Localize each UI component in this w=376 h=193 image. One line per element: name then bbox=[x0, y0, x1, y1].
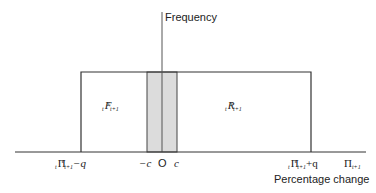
y-axis-label: Frequency bbox=[165, 12, 217, 23]
minus-q: −q bbox=[73, 157, 86, 169]
sub-t1: t+1 bbox=[64, 164, 73, 170]
prefix-t: t bbox=[55, 164, 57, 170]
tick-pos-c: c bbox=[174, 158, 179, 169]
sub-t1: t+1 bbox=[110, 106, 119, 112]
pi-symbol: Π bbox=[344, 157, 352, 169]
x-axis-label: Percentage change bbox=[274, 174, 369, 185]
x-axis-variable: Πt+1 bbox=[344, 158, 361, 170]
tick-left-bound: tΠet+1−q bbox=[55, 158, 86, 170]
tick-right-bound: tΠet+1+q bbox=[288, 158, 318, 170]
sub-t1: t+1 bbox=[297, 164, 306, 170]
region-f-label: tFet+1 bbox=[102, 100, 119, 112]
tick-origin: O bbox=[158, 158, 167, 169]
region-r-label: tRet+1 bbox=[225, 100, 242, 112]
tick-neg-c: −c bbox=[139, 158, 151, 169]
prefix-t: t bbox=[102, 106, 104, 112]
distribution-box bbox=[81, 72, 311, 152]
sub-t1: t+1 bbox=[233, 106, 242, 112]
sub-t1: t+1 bbox=[352, 164, 361, 170]
plus-q: +q bbox=[306, 157, 318, 169]
prefix-t: t bbox=[225, 106, 227, 112]
prefix-t: t bbox=[288, 164, 290, 170]
